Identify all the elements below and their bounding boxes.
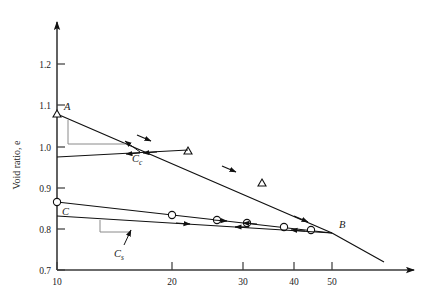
chart-background <box>0 0 432 305</box>
marker-circle-r1 <box>168 211 175 218</box>
y-tick-label-0-7: 0.7 <box>39 266 51 276</box>
x-tick-label-10: 10 <box>52 277 62 287</box>
y-tick-label-1-0: 1.0 <box>39 143 51 153</box>
point-label-a: A <box>63 101 71 112</box>
point-label-c: C <box>62 206 70 217</box>
marker-circle-c <box>53 198 60 205</box>
point-label-b: B <box>339 219 346 230</box>
chart-svg: 1.2 1.1 1.0 0.9 0.8 0.7 Void ratio, e 10… <box>0 0 432 305</box>
x-tick-label-50: 50 <box>327 277 337 287</box>
y-tick-label-0-9: 0.9 <box>39 184 51 194</box>
x-tick-label-40: 40 <box>289 277 299 287</box>
marker-circle-r5 <box>307 226 314 233</box>
y-tick-label-1-2: 1.2 <box>39 60 51 70</box>
x-tick-label-20: 20 <box>167 277 177 287</box>
y-tick-label-1-1: 1.1 <box>39 101 51 111</box>
y-tick-label-0-8: 0.8 <box>39 225 51 235</box>
x-tick-label-30: 30 <box>238 277 248 287</box>
cs-label-subscript: s <box>121 253 124 262</box>
consolidation-chart-figure: 1.2 1.1 1.0 0.9 0.8 0.7 Void ratio, e 10… <box>0 0 432 305</box>
y-axis-title: Void ratio, e <box>11 140 22 190</box>
